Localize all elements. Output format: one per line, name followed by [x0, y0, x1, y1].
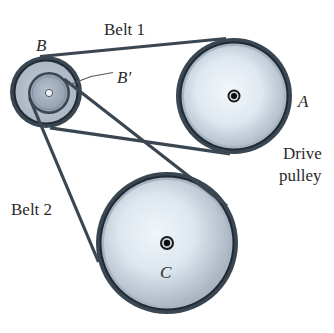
pulley-b-label: B: [36, 36, 47, 55]
pulley-b-hub: [45, 89, 52, 96]
pulley-a: [176, 38, 292, 154]
belt-2-label: Belt 2: [11, 200, 52, 219]
pulley-c: [96, 172, 238, 314]
pulley-a-label: A: [297, 92, 309, 111]
pulley-diagram: Belt 1 B B′ A Drive pulley Belt 2 C: [0, 0, 334, 333]
pulley-c-label: C: [160, 263, 172, 282]
drive-pulley-label-line1: Drive: [283, 144, 322, 163]
belt-1-label: Belt 1: [104, 20, 145, 39]
drive-pulley-label-line2: pulley: [279, 166, 322, 185]
pulley-b-prime-label: B′: [117, 68, 131, 87]
